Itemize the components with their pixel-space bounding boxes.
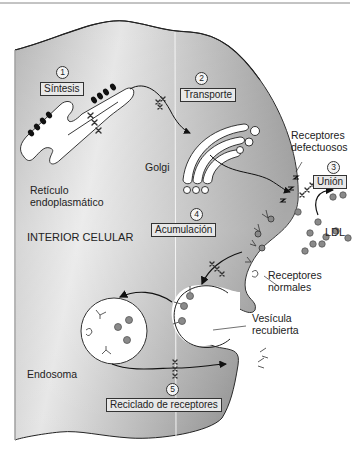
step-3-label: Unión: [313, 175, 347, 189]
er-label: Retículo endoplasmático: [30, 184, 104, 208]
defective-receptors-leader: [296, 162, 302, 172]
endosome-label: Endosoma: [27, 368, 77, 380]
union-arrow: [316, 190, 333, 215]
golgi-label: Golgi: [145, 161, 170, 173]
step-3-number: 3: [327, 161, 340, 174]
step-5-number: 5: [166, 383, 179, 396]
step-2-number: 2: [195, 72, 208, 85]
step-1-number: 1: [56, 66, 69, 79]
step-4-label: Acumulación: [151, 223, 216, 237]
ldl-label: LDL: [325, 226, 345, 238]
ldl-particles: [295, 192, 351, 254]
step-2-label: Transporte: [180, 88, 236, 102]
coated-vesicle-label: Vesícula recubierta: [252, 312, 299, 336]
endosome: [81, 298, 147, 364]
step-5-label: Reciclado de receptores: [106, 398, 222, 412]
coated-vesicle: [172, 285, 240, 348]
step-1-label: Síntesis: [40, 82, 84, 96]
step-4-number: 4: [190, 208, 203, 221]
interior-celular-label: INTERIOR CELULAR: [27, 231, 133, 243]
ldl-receptor-diagram: 1 Síntesis 2 Transporte 3 Unión 4 Acumul…: [0, 0, 363, 456]
defective-receptors-label: Receptores defectuosos: [291, 129, 348, 153]
normal-receptors-label: Receptores normales: [268, 269, 322, 293]
defective-receptor-marks-union: [300, 183, 314, 197]
